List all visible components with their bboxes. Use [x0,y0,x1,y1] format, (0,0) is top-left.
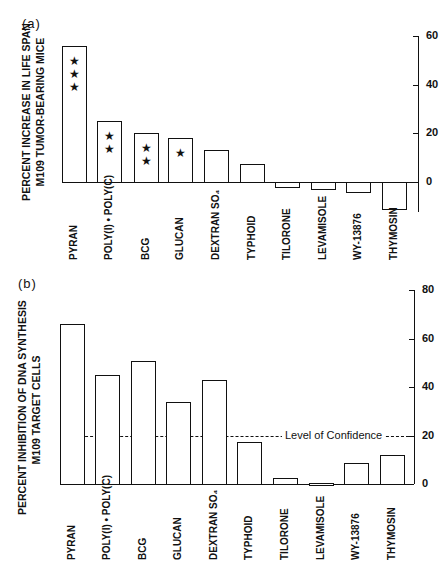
panel-b-category-label: TILORONE [279,508,290,560]
panel-b-y-tick-label: 20 [422,429,434,441]
panel-b-bar [273,478,298,485]
panel-b-y-tick-label: 40 [422,380,434,392]
panel-b-plot-area: 020406080Level of ConfidencePYRANPOLY(I)… [0,0,442,570]
panel-b-bar [60,324,85,485]
panel-b-category-label: GLUCAN [172,517,183,560]
panel-b-y-tick-label: 0 [422,477,428,489]
panel-b-y-tick [409,290,414,291]
panel-b-category-label: PYRAN [66,525,77,560]
panel-b-y-axis [414,290,415,484]
panel-b-category-label: DEXTRAN SO₄ [208,490,219,560]
panel-b-confidence-label: Level of Confidence [282,429,385,441]
panel-b-y-tick-label: 80 [422,283,434,295]
panel-b-bar [309,483,334,486]
panel-b-category-label: TYPHOID [243,516,254,560]
panel-b-category-label: WY-13876 [350,513,361,560]
panel-b-y-tick [409,339,414,340]
panel-b: (b) PERCENT INHIBITION OF DNA SYNTHESIS … [0,0,442,570]
panel-b-bar [202,380,227,485]
panel-b-y-tick [409,484,414,485]
panel-b-bar [380,455,405,485]
panel-b-category-label: BCG [137,538,148,560]
panel-b-bar [344,463,369,485]
panel-b-category-label: LEVAMISOLE [315,496,326,560]
panel-b-bar [131,361,156,485]
panel-b-bar [166,402,191,485]
panel-b-category-label: THYMOSIN [386,507,397,560]
panel-b-y-tick [409,387,414,388]
panel-b-y-tick-label: 60 [422,332,434,344]
panel-b-bar [95,375,120,485]
panel-b-category-label: POLY(I) • POLY(C) [101,475,112,560]
panel-b-bar [237,442,262,485]
